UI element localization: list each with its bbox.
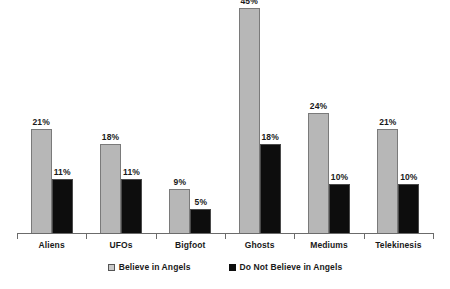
category-label-bigfoot: Bigfoot xyxy=(175,240,205,251)
bar-rect xyxy=(398,184,419,234)
legend-label-believe: Believe in Angels xyxy=(119,262,191,272)
legend-swatch-light-icon xyxy=(108,264,115,271)
bar-value-label: 9% xyxy=(174,177,187,187)
axis-tick xyxy=(433,234,434,239)
bar-rect xyxy=(239,8,260,234)
bar-telekinesis-series1: 10% xyxy=(398,8,419,234)
bar-ufos-series0: 18% xyxy=(100,8,121,234)
legend-label-do-not-believe: Do Not Believe in Angels xyxy=(240,262,343,272)
plot-area: 21%11%18%11%9%5%45%18%24%10%21%10% xyxy=(17,8,433,234)
bar-chart: 21%11%18%11%9%5%45%18%24%10%21%10% Alien… xyxy=(0,0,450,289)
bar-mediums-series0: 24% xyxy=(308,8,329,234)
legend-item-believe[interactable]: Believe in Angels xyxy=(108,262,191,272)
bar-rect xyxy=(100,144,121,234)
bar-rect xyxy=(377,129,398,234)
bar-rect xyxy=(190,209,211,234)
category-label-mediums: Mediums xyxy=(310,240,348,251)
bar-value-label: 11% xyxy=(54,167,71,177)
bar-ghosts-series0: 45% xyxy=(239,8,260,234)
bar-value-label: 10% xyxy=(400,172,417,182)
bar-bigfoot-series1: 5% xyxy=(190,8,211,234)
bar-value-label: 18% xyxy=(262,132,279,142)
axis-tick xyxy=(364,234,365,239)
bar-rect xyxy=(260,144,281,234)
bar-value-label: 11% xyxy=(123,167,140,177)
bar-value-label: 45% xyxy=(241,0,258,6)
bar-rect xyxy=(52,179,73,234)
legend-swatch-dark-icon xyxy=(229,264,236,271)
bar-bigfoot-series0: 9% xyxy=(169,8,190,234)
bar-mediums-series1: 10% xyxy=(329,8,350,234)
bar-rect xyxy=(31,129,52,234)
bar-value-label: 5% xyxy=(195,197,208,207)
bar-aliens-series0: 21% xyxy=(31,8,52,234)
bar-ufos-series1: 11% xyxy=(121,8,142,234)
axis-tick xyxy=(294,234,295,239)
bar-value-label: 21% xyxy=(33,117,50,127)
bar-value-label: 24% xyxy=(310,101,327,111)
category-label-telekinesis: Telekinesis xyxy=(375,240,421,251)
bar-rect xyxy=(121,179,142,234)
axis-tick xyxy=(156,234,157,239)
category-label-ufos: UFOs xyxy=(109,240,132,251)
bar-aliens-series1: 11% xyxy=(52,8,73,234)
axis-tick xyxy=(225,234,226,239)
bar-rect xyxy=(169,189,190,234)
bar-value-label: 18% xyxy=(102,132,119,142)
bar-rect xyxy=(329,184,350,234)
axis-tick xyxy=(86,234,87,239)
bar-rect xyxy=(308,113,329,234)
bar-ghosts-series1: 18% xyxy=(260,8,281,234)
legend-item-do-not-believe[interactable]: Do Not Believe in Angels xyxy=(229,262,343,272)
chart-legend: Believe in Angels Do Not Believe in Ange… xyxy=(0,262,450,272)
axis-tick xyxy=(17,234,18,239)
bar-value-label: 10% xyxy=(331,172,348,182)
bar-telekinesis-series0: 21% xyxy=(377,8,398,234)
category-label-aliens: Aliens xyxy=(39,240,65,251)
bar-value-label: 21% xyxy=(379,117,396,127)
category-label-ghosts: Ghosts xyxy=(245,240,275,251)
